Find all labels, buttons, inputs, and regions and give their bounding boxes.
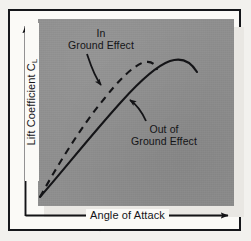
annotation-in-ground-effect: In Ground Effect	[58, 28, 144, 51]
annotation-out-of-ground-effect: Out of Ground Effect	[118, 124, 210, 147]
annotation-in-ground-effect-line1: In	[58, 28, 144, 40]
x-axis-label: Angle of Attack	[86, 209, 169, 221]
annotation-out-of-ground-effect-line2: Ground Effect	[118, 136, 210, 148]
y-axis-label-subscript: L	[30, 59, 39, 64]
in-ground-effect-leader-arrow	[87, 54, 101, 85]
figure-container: In Ground Effect Out of Ground Effect An…	[0, 0, 251, 241]
annotation-out-of-ground-effect-line1: Out of	[118, 124, 210, 136]
annotation-in-ground-effect-line2: Ground Effect	[58, 40, 144, 52]
out-of-ground-effect-leader-arrow	[130, 100, 146, 121]
y-axis-label: Lift Coefficient CL	[25, 23, 39, 181]
y-axis-label-text: Lift Coefficient C	[25, 63, 37, 145]
